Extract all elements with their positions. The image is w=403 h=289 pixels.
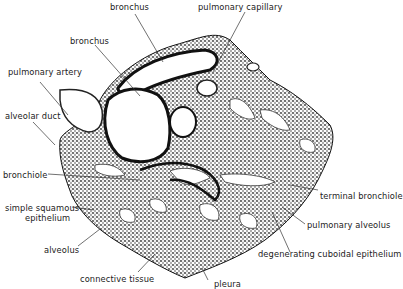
vessel-lower	[170, 107, 196, 137]
label-alveolus: alveolus	[44, 245, 79, 255]
label-bronchus-left: bronchus	[70, 36, 109, 46]
label-connective-tissue: connective tissue	[80, 274, 154, 284]
label-epithelium: epithelium	[25, 213, 70, 223]
label-bronchiole: bronchiole	[3, 170, 47, 180]
bronchus-lower	[105, 89, 170, 162]
label-terminal-bronchiole: terminal bronchiole	[320, 191, 403, 201]
vessel-upper	[197, 80, 217, 96]
label-pulmonary-artery: pulmonary artery	[8, 67, 82, 77]
label-degenerating-cuboidal-epithelium: degenerating cuboidal epithelium	[258, 249, 402, 259]
vessel-small	[247, 63, 259, 71]
label-bronchus-top: bronchus	[110, 2, 149, 12]
label-pulmonary-alveolus: pulmonary alveolus	[307, 220, 390, 230]
label-pulmonary-capillary: pulmonary capillary	[198, 2, 282, 12]
label-alveolar-duct: alveolar duct	[5, 111, 61, 121]
label-simple-squamous: simple squamous	[5, 203, 79, 213]
pulmonary-artery	[60, 90, 102, 132]
label-pleura: pleura	[214, 279, 241, 289]
